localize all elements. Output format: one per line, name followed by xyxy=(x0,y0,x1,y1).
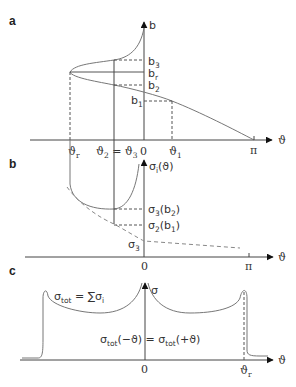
b-sigma-dashed-curve xyxy=(67,187,240,248)
scattering-diagram: a ϑ b b3 br b2 b1 ϑr ϑ2 = ϑ3 0 ϑ1 π b ϑ xyxy=(0,0,296,387)
b-zero-label: 0 xyxy=(141,260,148,273)
a-y-axis-label: b xyxy=(149,19,156,32)
a-pi-label: π xyxy=(250,144,257,157)
b-pi-label: π xyxy=(245,260,252,273)
panel-a-label: a xyxy=(9,14,16,28)
c-formula-sum: σtot = ∑σi xyxy=(54,290,104,305)
c-formula-symmetry: σtot(−ϑ) = σtot(+ϑ) xyxy=(100,333,200,348)
b-s3b2-label: σ3(b2) xyxy=(148,203,180,218)
b-s2b1-label: σ2(b1) xyxy=(148,219,180,234)
panel-c: c ϑ σ σtot = ∑σi σtot(−ϑ) = σtot(+ϑ) 0 ϑ… xyxy=(9,264,286,379)
b-s3-label: σ3 xyxy=(128,238,140,253)
c-zero-label: 0 xyxy=(141,363,148,376)
a-theta1-label: ϑ1 xyxy=(169,145,182,160)
a-zero-label: 0 xyxy=(140,145,147,158)
b-y-axis-label: σi(ϑ) xyxy=(149,160,173,175)
c-y-axis-label: σ xyxy=(151,284,158,297)
panel-b-label: b xyxy=(9,157,16,171)
panel-c-label: c xyxy=(9,264,16,278)
c-x-axis-label: ϑ xyxy=(278,354,286,367)
panel-b: b ϑ σi(ϑ) σ3(b2) σ2(b1) σ3 0 π xyxy=(9,140,286,273)
a-b2-label: b2 xyxy=(148,79,160,94)
b-x-axis-label: ϑ xyxy=(278,251,286,264)
a-b1-label: b1 xyxy=(131,94,143,109)
a-theta23-label: ϑ2 = ϑ3 xyxy=(96,145,138,160)
c-theta-r-label: ϑr xyxy=(240,364,252,379)
panel-a: a ϑ b b3 br b2 b1 ϑr ϑ2 = ϑ3 0 ϑ1 π xyxy=(9,14,286,160)
diagram-canvas: a ϑ b b3 br b2 b1 ϑr ϑ2 = ϑ3 0 ϑ1 π b ϑ xyxy=(0,0,296,387)
a-x-axis-label: ϑ xyxy=(278,134,286,147)
a-deflection-curve xyxy=(70,28,254,140)
